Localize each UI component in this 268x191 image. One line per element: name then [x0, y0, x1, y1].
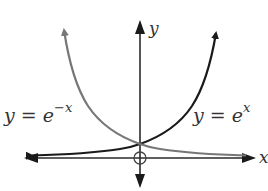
- exponential-graph: y x y = e−x y = ex: [0, 0, 268, 191]
- label-exp-negative: y = e−x: [4, 103, 72, 126]
- y-axis-label: y: [149, 18, 159, 38]
- x-axis-label: x: [259, 147, 268, 167]
- graph-canvas: [0, 0, 268, 191]
- label-exp-positive: y = ex: [193, 103, 250, 126]
